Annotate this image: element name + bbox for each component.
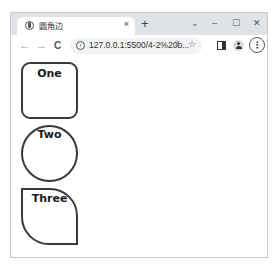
reload-button[interactable]: C — [54, 39, 61, 52]
tab-title: 圆角边 — [39, 20, 63, 31]
browser-window: 圆角边 × + ⌄ – ☐ ✕ ← → C i 127.0.0.1:5500/4… — [10, 12, 268, 258]
tab-active[interactable]: 圆角边 × — [17, 17, 135, 35]
menu-kebab-icon[interactable]: ⋮ — [249, 37, 265, 53]
tab-strip: 圆角边 × + ⌄ – ☐ ✕ — [11, 13, 267, 35]
leaf-box-three: Three — [21, 188, 78, 245]
info-icon[interactable]: i — [76, 41, 85, 50]
page-content: One Two Three — [11, 57, 267, 257]
back-button[interactable]: ← — [19, 39, 30, 52]
minimize-button[interactable]: – — [212, 17, 217, 29]
maximize-button[interactable]: ☐ — [232, 17, 240, 29]
bookmark-star-icon[interactable]: ☆ — [188, 39, 196, 49]
tab-search-button[interactable]: ⌄ — [191, 17, 199, 29]
address-bar[interactable]: i 127.0.0.1:5500/4-2%20b... ⇪ ☆ — [70, 38, 202, 54]
circle-box-two: Two — [21, 125, 78, 182]
tab-close-button[interactable]: × — [124, 19, 129, 29]
side-panel-icon[interactable] — [217, 41, 226, 50]
forward-button[interactable]: → — [36, 39, 47, 52]
share-icon[interactable]: ⇪ — [173, 39, 181, 49]
rounded-box-one: One — [21, 62, 78, 119]
profile-avatar-icon[interactable] — [233, 40, 244, 51]
browser-toolbar: ← → C i 127.0.0.1:5500/4-2%20b... ⇪ ☆ ⋮ — [11, 35, 267, 58]
close-window-button[interactable]: ✕ — [253, 17, 261, 29]
new-tab-button[interactable]: + — [141, 17, 149, 31]
globe-icon — [25, 21, 34, 30]
